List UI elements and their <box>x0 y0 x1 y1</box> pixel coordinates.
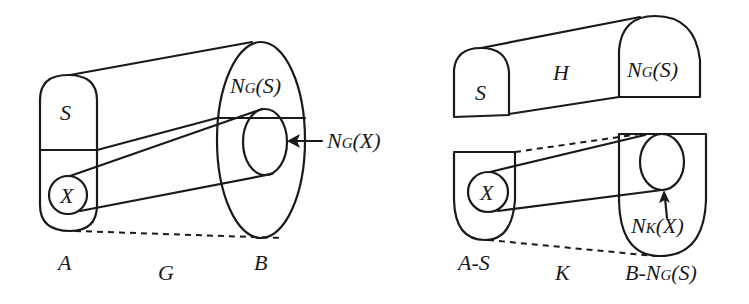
bipartite-graph-diagram: S X NG(S) NG(X) A G B S H NG(S) X NK(X <box>0 0 749 304</box>
nk-x-ellipse <box>640 134 684 190</box>
h-bottom-line <box>509 97 619 114</box>
figure-right-h: S H NG(S) <box>454 16 700 117</box>
k-top-dashed-line <box>515 134 640 152</box>
label-x-left: X <box>59 183 75 208</box>
label-s-left: S <box>60 100 71 125</box>
label-nx-left: NG(X) <box>326 128 381 153</box>
label-x-right: X <box>479 180 495 205</box>
s-to-ns-top-line <box>70 42 252 75</box>
label-a-minus-s: A-S <box>456 250 490 275</box>
label-b-minus-ns: B-NG(S) <box>625 260 697 285</box>
x-to-nx-bottom-line <box>80 174 272 211</box>
label-ns-left: NG(S) <box>229 73 281 98</box>
label-nk-x: NK(X) <box>630 213 684 238</box>
k-x-bottom-line <box>498 190 662 211</box>
label-b: B <box>254 250 267 275</box>
label-h: H <box>552 60 570 85</box>
label-g: G <box>158 260 174 285</box>
label-ns-right: NG(S) <box>626 57 678 82</box>
h-top-line <box>481 17 640 48</box>
label-s-right: S <box>475 80 486 105</box>
a-to-b-dashed-line <box>75 231 283 238</box>
k-x-top-line <box>490 135 645 172</box>
label-a: A <box>56 250 72 275</box>
figure-right-k: X NK(X) A-S K B-NG(S) <box>454 134 706 285</box>
x-to-nx-top-line <box>70 109 262 176</box>
figure-left-g: S X NG(S) NG(X) A G B <box>40 42 381 285</box>
label-k: K <box>554 260 571 285</box>
